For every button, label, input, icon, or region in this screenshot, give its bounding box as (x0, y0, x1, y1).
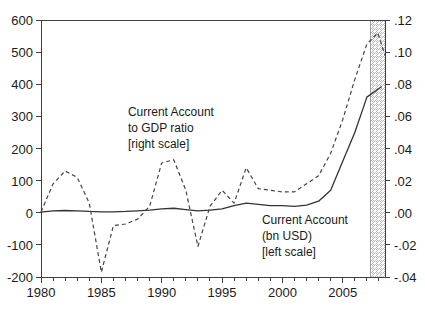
x-axis-tick-label: 1985 (87, 285, 116, 300)
left-axis-tick-label: -100 (7, 238, 33, 253)
ratio-annotation-line: Current Account (128, 105, 215, 119)
level-annotation-line: Current Account (262, 213, 349, 227)
ratio-annotation-line: to GDP ratio (128, 121, 194, 135)
x-axis-tick-label: 1995 (208, 285, 237, 300)
level-annotation-line: (bn USD) (262, 229, 312, 243)
right-axis-tick-label: .04 (394, 142, 412, 157)
right-axis-tick-label: .06 (394, 109, 412, 124)
left-axis-tick-label: 300 (11, 109, 33, 124)
x-axis-tick-label: 1990 (147, 285, 176, 300)
left-axis-tick-label: 500 (11, 45, 33, 60)
left-axis-tick-label: 400 (11, 77, 33, 92)
x-axis-tick-label: 2005 (328, 285, 357, 300)
left-axis-tick-label: 200 (11, 142, 33, 157)
right-axis-tick-label: .08 (394, 77, 412, 92)
x-axis-tick-label: 2000 (268, 285, 297, 300)
chart-container: -200-1000100200300400500600-.04-.02.00.0… (0, 0, 425, 319)
series-line-ratio (41, 33, 385, 272)
level-annotation-line: [left scale] (262, 245, 316, 259)
right-axis-tick-label: -.02 (394, 238, 416, 253)
ratio-annotation-line: [right scale] (128, 137, 189, 151)
left-axis-tick-label: 100 (11, 174, 33, 189)
right-axis-tick-label: .10 (394, 45, 412, 60)
left-axis-tick-label: 600 (11, 13, 33, 28)
forecast-band (371, 20, 385, 277)
right-axis-tick-label: .12 (394, 13, 412, 28)
right-axis-tick-label: .00 (394, 206, 412, 221)
right-axis-tick-label: .02 (394, 174, 412, 189)
left-axis-tick-label: -200 (7, 270, 33, 285)
dual-axis-line-chart: -200-1000100200300400500600-.04-.02.00.0… (0, 0, 425, 319)
plot-area: -200-1000100200300400500600-.04-.02.00.0… (7, 13, 416, 300)
x-axis-tick-label: 1980 (27, 285, 56, 300)
left-axis-tick-label: 0 (26, 206, 33, 221)
right-axis-tick-label: -.04 (394, 270, 416, 285)
